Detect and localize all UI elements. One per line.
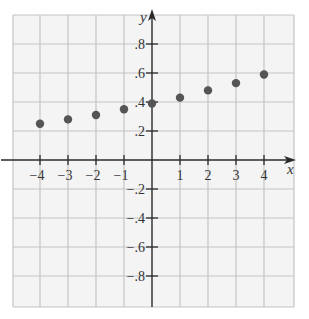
x-axis-label: x (286, 161, 294, 177)
x-tick-label: 1 (177, 168, 184, 183)
data-point (92, 111, 100, 119)
x-tick-label: −3 (58, 168, 73, 183)
scatter-chart: −4−3−2−11234.8.6.4.2−.2−.4−.6−.8 x y (0, 0, 309, 319)
y-tick-label: .8 (135, 37, 146, 52)
y-tick-label: −.8 (127, 269, 145, 284)
y-tick-label: .4 (135, 95, 146, 110)
data-point (232, 79, 240, 87)
x-tick-label: 4 (261, 168, 268, 183)
x-tick-label: 2 (205, 168, 212, 183)
plot-background (13, 15, 294, 307)
y-tick-label: .2 (135, 124, 146, 139)
data-point (36, 120, 44, 128)
x-tick-label: −1 (114, 168, 129, 183)
x-tick-label: −2 (86, 168, 101, 183)
data-point (176, 93, 184, 101)
y-axis-label: y (138, 9, 147, 25)
data-point (204, 86, 212, 94)
y-tick-label: .6 (135, 66, 146, 81)
data-point (120, 105, 128, 113)
data-point (260, 70, 268, 78)
y-tick-label: −.2 (127, 182, 145, 197)
x-tick-label: 3 (233, 168, 240, 183)
y-tick-label: −.4 (127, 211, 145, 226)
y-tick-label: −.6 (127, 240, 145, 255)
x-tick-label: −4 (30, 168, 45, 183)
data-point (64, 115, 72, 123)
data-point (148, 99, 156, 107)
